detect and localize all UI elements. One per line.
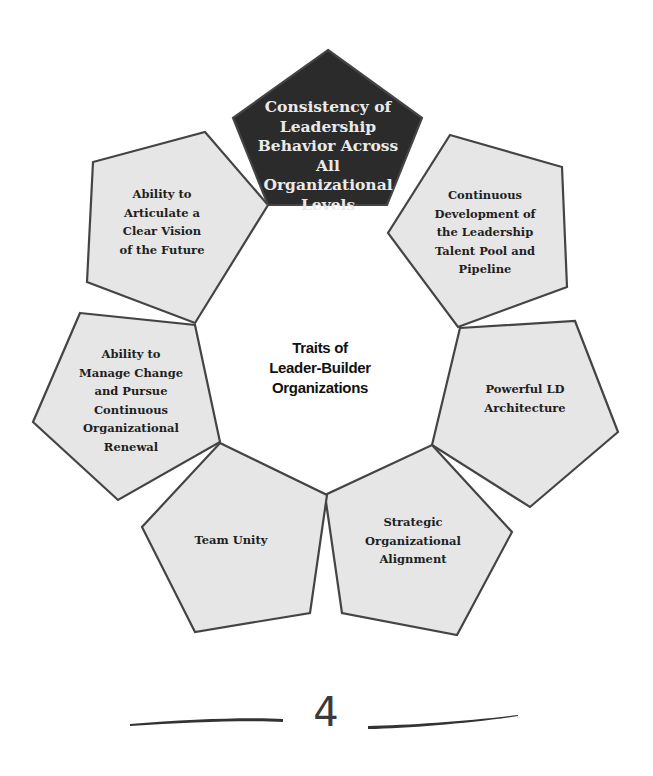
footer-rule-left bbox=[130, 718, 283, 726]
pentagon-label-line: All bbox=[258, 155, 399, 175]
pentagon-label-line: Articulate a bbox=[120, 204, 205, 223]
pentagon-label-line: Alignment bbox=[365, 550, 461, 569]
pentagon-label-line: Team Unity bbox=[195, 531, 268, 550]
pentagon-label-line: Powerful LD bbox=[484, 380, 565, 399]
leader-builder-traits-diagram: Consistency ofLeadershipBehavior AcrossA… bbox=[0, 0, 653, 776]
center-title: Traits of Leader-Builder Organizations bbox=[269, 338, 371, 398]
pentagon-label-continuous-development: ContinuousDevelopment ofthe LeadershipTa… bbox=[434, 186, 535, 279]
pentagon-label-line: Pipeline bbox=[434, 260, 535, 279]
pentagon-label-line: Development of bbox=[434, 204, 535, 223]
footer-rule-right bbox=[368, 715, 518, 729]
pentagon-label-manage-change: Ability toManage Changeand PursueContinu… bbox=[79, 345, 183, 456]
pentagon-label-powerful-ld: Powerful LDArchitecture bbox=[484, 380, 565, 417]
pentagon-label-articulate-vision: Ability toArticulate aClear Visionof the… bbox=[120, 185, 205, 259]
pentagon-label-team-unity: Team Unity bbox=[195, 531, 268, 550]
pentagon-label-line: Leadership bbox=[258, 116, 399, 136]
page-number: 4 bbox=[313, 689, 338, 735]
pentagon-label-strategic-alignment: StrategicOrganizationalAlignment bbox=[365, 513, 461, 569]
pentagon-label-line: Ability to bbox=[79, 345, 183, 364]
pentagon-label-line: Ability to bbox=[120, 185, 205, 204]
pentagon-label-consistency: Consistency ofLeadershipBehavior AcrossA… bbox=[258, 97, 399, 214]
pentagon-label-line: Levels bbox=[258, 194, 399, 214]
pentagon-label-line: Clear Vision bbox=[120, 222, 205, 241]
pentagon-label-line: Architecture bbox=[484, 398, 565, 417]
pentagon-label-line: Manage Change bbox=[79, 363, 183, 382]
pentagon-label-line: of the Future bbox=[120, 241, 205, 260]
pentagon-label-line: Consistency of bbox=[258, 97, 399, 117]
pentagon-label-line: Talent Pool and bbox=[434, 241, 535, 260]
pentagon-label-line: Organizational bbox=[79, 419, 183, 438]
pentagon-label-line: Strategic bbox=[365, 513, 461, 532]
pentagon-label-line: and Pursue bbox=[79, 382, 183, 401]
pentagon-label-line: Organizational bbox=[365, 532, 461, 551]
pentagon-label-line: Organizational bbox=[258, 175, 399, 195]
center-title-line-2: Leader-Builder bbox=[269, 358, 371, 378]
pentagon-label-line: Renewal bbox=[79, 437, 183, 456]
center-title-line-3: Organizations bbox=[269, 378, 371, 398]
pentagon-label-line: the Leadership bbox=[434, 223, 535, 242]
pentagon-label-line: Continuous bbox=[434, 186, 535, 205]
center-title-line-1: Traits of bbox=[269, 338, 371, 358]
pentagon-label-line: Continuous bbox=[79, 400, 183, 419]
pentagon-label-line: Behavior Across bbox=[258, 136, 399, 156]
